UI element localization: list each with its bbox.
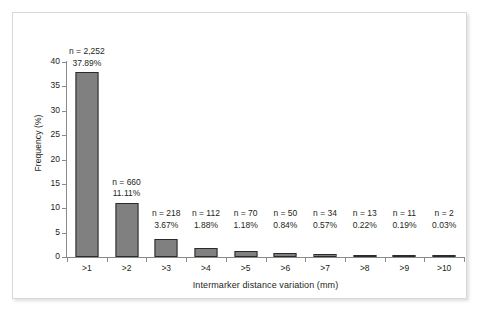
y-axis-tick-mark [62, 111, 66, 112]
bar-group[interactable]: n = 701.18% [226, 62, 266, 257]
x-axis-title: Intermarker distance variation (mm) [67, 280, 464, 290]
x-axis-tick-label: >7 [305, 263, 345, 273]
x-axis-tick-label: >1 [67, 263, 107, 273]
plot-area: n = 2,25237.89%n = 66011.11%n = 2183.67%… [67, 62, 464, 257]
bar-count-label: n = 2,252 [69, 46, 105, 58]
bar-group[interactable]: n = 2,25237.89% [67, 62, 107, 257]
bar-percent-label: 0.57% [313, 220, 337, 232]
y-axis-tick-mark [62, 233, 66, 234]
x-axis-tick-mark [305, 258, 306, 262]
bar-group[interactable]: n = 500.84% [266, 62, 306, 257]
x-axis-tick-mark [226, 258, 227, 262]
bar-percent-label: 0.84% [273, 220, 297, 232]
x-axis-tick-label: >3 [146, 263, 186, 273]
bar-percent-label: 3.67% [152, 220, 181, 232]
x-axis-tick-label: >9 [385, 263, 425, 273]
y-axis-tick-mark [62, 160, 66, 161]
bar-value-label: n = 20.03% [432, 208, 456, 231]
bar-count-label: n = 50 [273, 208, 297, 220]
x-axis-tick-label: >6 [266, 263, 306, 273]
y-axis-tick-label: 5 [38, 227, 60, 238]
bar-value-label: n = 2,25237.89% [69, 46, 105, 69]
x-axis-tick-label: >2 [107, 263, 147, 273]
bar-count-label: n = 34 [313, 208, 337, 220]
y-axis-tick-mark [62, 135, 66, 136]
bar-value-label: n = 66011.11% [112, 177, 141, 200]
y-axis-tick-label: 20 [38, 154, 60, 165]
bar[interactable] [155, 239, 178, 257]
y-axis-tick-mark [62, 62, 66, 63]
x-axis-tick-mark [345, 258, 346, 262]
bar-value-label: n = 500.84% [273, 208, 297, 231]
y-axis-tick-label: 15 [38, 178, 60, 189]
bar[interactable] [194, 248, 217, 257]
y-axis-tick-mark [62, 184, 66, 185]
x-axis-tick-mark [424, 258, 425, 262]
y-axis-tick-labels: 0510152025303540 [38, 56, 60, 257]
x-axis-tick-label: >10 [424, 263, 464, 273]
bar-count-label: n = 2 [432, 208, 456, 220]
bar[interactable] [115, 203, 138, 257]
y-axis-tick-label: 10 [38, 202, 60, 213]
bar-count-label: n = 11 [392, 208, 416, 220]
y-axis-tick-mark [62, 208, 66, 209]
bar-count-label: n = 218 [152, 208, 181, 220]
y-axis-tick-mark [62, 86, 66, 87]
x-axis-tick-mark [107, 258, 108, 262]
x-axis-tick-labels: >1>2>3>4>5>6>7>8>9>10 [67, 263, 464, 279]
bar-percent-label: 11.11% [112, 188, 141, 200]
bar-value-label: n = 2183.67% [152, 208, 181, 231]
x-axis-tick-label: >8 [345, 263, 385, 273]
bar-group[interactable]: n = 66011.11% [107, 62, 147, 257]
x-axis-tick-mark [67, 258, 68, 262]
x-axis-tick-mark [266, 258, 267, 262]
bar-chart: Frequency (%) 0510152025303540 n = 2,252… [0, 0, 487, 321]
bar-percent-label: 37.89% [69, 58, 105, 70]
bar-percent-label: 0.19% [392, 220, 416, 232]
x-axis-tick-mark [385, 258, 386, 262]
bar-count-label: n = 660 [112, 177, 141, 189]
y-axis-tick-label: 30 [38, 105, 60, 116]
y-axis-tick-label: 35 [38, 80, 60, 91]
bar-group[interactable]: n = 340.57% [305, 62, 345, 257]
bar-percent-label: 0.03% [432, 220, 456, 232]
bar-group[interactable]: n = 130.22% [345, 62, 385, 257]
x-axis-tick-label: >5 [226, 263, 266, 273]
y-axis-tick-label: 25 [38, 129, 60, 140]
bar-value-label: n = 340.57% [313, 208, 337, 231]
bar-count-label: n = 13 [353, 208, 377, 220]
bar-count-label: n = 112 [192, 208, 220, 220]
bar-group[interactable]: n = 1121.88% [186, 62, 226, 257]
bar-value-label: n = 110.19% [392, 208, 416, 231]
bar-value-label: n = 1121.88% [192, 208, 220, 231]
x-axis-tick-mark [146, 258, 147, 262]
bar-group[interactable]: n = 2183.67% [146, 62, 186, 257]
bar-percent-label: 1.88% [192, 220, 220, 232]
y-axis-tick-label: 40 [38, 56, 60, 67]
bar-count-label: n = 70 [234, 208, 258, 220]
bar-group[interactable]: n = 20.03% [424, 62, 464, 257]
bar-value-label: n = 701.18% [234, 208, 258, 231]
x-axis-tick-mark [186, 258, 187, 262]
bar-percent-label: 1.18% [234, 220, 258, 232]
x-axis-tick-mark [464, 258, 465, 262]
x-axis-tick-label: >4 [186, 263, 226, 273]
y-axis-tick-mark [62, 257, 66, 258]
bar-value-label: n = 130.22% [353, 208, 377, 231]
bar-percent-label: 0.22% [353, 220, 377, 232]
y-axis-tick-label: 0 [38, 251, 60, 262]
bar[interactable] [75, 72, 98, 257]
bar-group[interactable]: n = 110.19% [385, 62, 425, 257]
